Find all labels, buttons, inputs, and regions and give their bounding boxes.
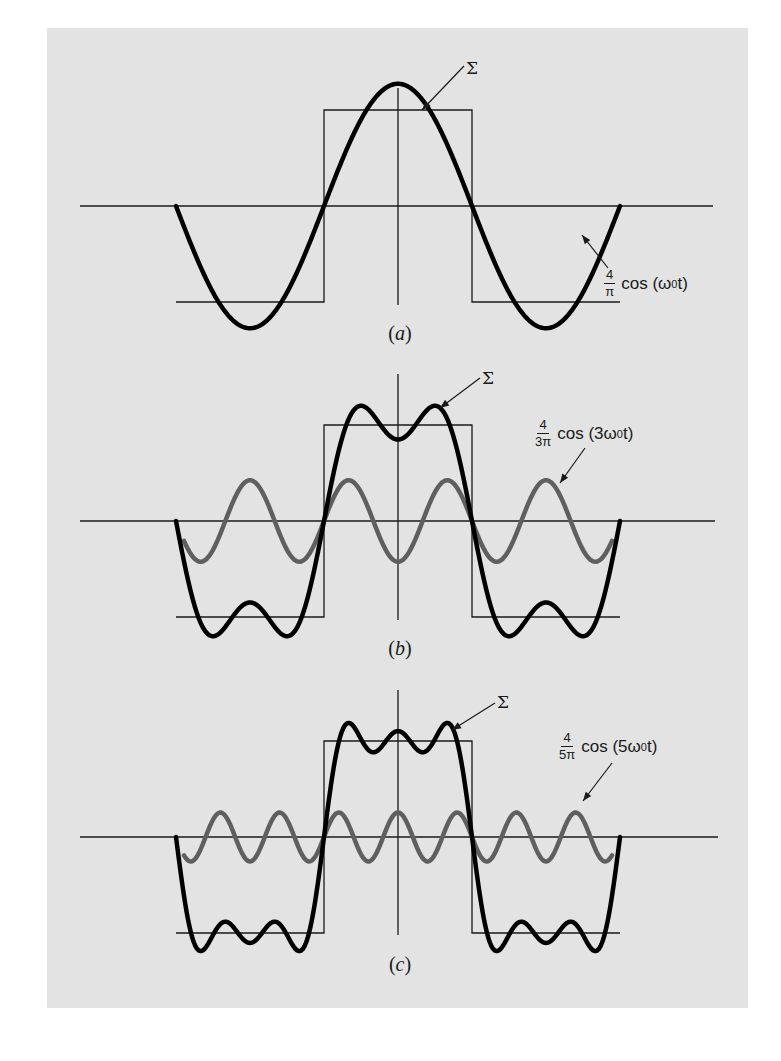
- sum-label-c: Σ: [497, 692, 509, 712]
- arrowhead-icon: [440, 400, 449, 408]
- sum-label-b: Σ: [482, 368, 494, 388]
- caption-c: (c): [389, 953, 411, 976]
- fourier-figure: [0, 0, 781, 1061]
- fraction-b: 4 3π: [535, 418, 551, 449]
- arrowhead-icon: [560, 474, 568, 483]
- sigma-arrow: [422, 66, 464, 110]
- term-label-a: 4 π cos (ω0t): [604, 268, 688, 299]
- caption-a: (a): [388, 322, 411, 345]
- term-label-b: 4 3π cos (3ω0t): [535, 418, 633, 449]
- arrowhead-icon: [582, 235, 590, 244]
- caption-b: (b): [388, 637, 411, 660]
- term-label-c: 4 5π cos (5ω0t): [559, 731, 657, 762]
- arrowhead-icon: [583, 792, 591, 801]
- sum-label-a: Σ: [466, 58, 478, 78]
- fraction-c: 4 5π: [559, 731, 575, 762]
- fraction-a: 4 π: [604, 268, 615, 299]
